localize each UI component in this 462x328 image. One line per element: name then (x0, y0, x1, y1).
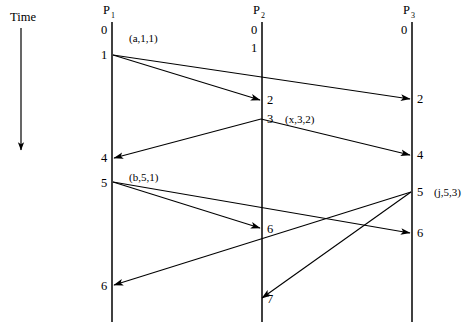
message-arrow-j-p3-p2 (262, 192, 411, 298)
clock-tick-p2-1: 1 (251, 41, 257, 55)
process-name-p3: P 3 (403, 3, 415, 20)
clock-tick-p1-5: 5 (101, 176, 107, 190)
clock-tick-p2-7: 7 (267, 292, 273, 306)
event-label-x: (x,3,2) (285, 113, 315, 126)
clock-tick-p3-2: 2 (417, 92, 423, 106)
space-time-diagram: Time P 1 P 2 P 3 (0, 0, 462, 328)
message-arrow-x-p2-p1 (114, 119, 261, 158)
clock-tick-p3-4: 4 (417, 148, 424, 162)
diagram-canvas: Time P 1 P 2 P 3 (0, 0, 462, 328)
message-arrow-b-p1-p2 (113, 182, 260, 228)
clock-tick-p2-2: 2 (267, 93, 273, 107)
clock-tick-p2-3: 3 (267, 112, 273, 126)
process-name-p1: P 1 (103, 3, 115, 20)
clock-tick-p2-6: 6 (267, 222, 273, 236)
clock-tick-p2-0: 0 (251, 23, 257, 37)
clock-tick-p3-6: 6 (417, 226, 423, 240)
time-axis-label: Time (10, 10, 36, 24)
event-label-j: (j,5,3) (434, 186, 461, 199)
process-name-p3-letter: P (403, 3, 410, 17)
process-name-p1-letter: P (103, 3, 110, 17)
process-name-p2-subscript: 2 (261, 11, 265, 20)
message-arrow-a-p1-p2 (113, 55, 260, 100)
process-name-p1-subscript: 1 (111, 11, 115, 20)
clock-tick-p1-0: 0 (101, 23, 107, 37)
process-name-p3-subscript: 3 (411, 11, 415, 20)
clock-tick-p3-5: 5 (417, 185, 423, 199)
process-name-p2-letter: P (253, 3, 260, 17)
time-axis-group: Time (10, 10, 36, 150)
clock-tick-p3-0: 0 (401, 23, 407, 37)
process-name-p2: P 2 (253, 3, 265, 20)
message-arrow-x-p2-p3 (261, 119, 410, 155)
clock-tick-p1-1: 1 (101, 48, 107, 62)
process-names-group: P 1 P 2 P 3 (103, 3, 415, 20)
clock-tick-p1-6: 6 (101, 279, 107, 293)
event-label-b: (b,5,1) (129, 171, 159, 184)
clock-tick-p1-4: 4 (101, 151, 108, 165)
event-label-a: (a,1,1) (129, 32, 158, 45)
